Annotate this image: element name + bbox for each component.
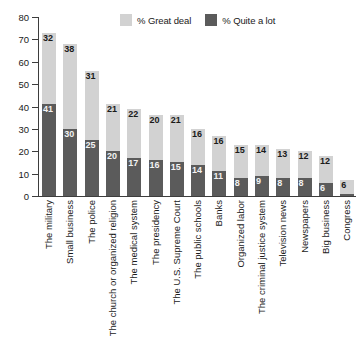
bar-value-great-deal: 31 [86,72,96,81]
bar-value-quite-a-lot: 6 [320,184,325,193]
bar-segment-quite-a-lot[interactable]: 15 [170,162,184,196]
x-axis-label: Big business [321,200,331,254]
x-axis-label: The military [44,200,54,249]
bar-stack[interactable]: 6 [340,180,354,196]
bar-stack[interactable]: 1611 [212,136,226,196]
bar-stack[interactable]: 2120 [106,104,120,196]
bar-segment-quite-a-lot[interactable]: 16 [149,160,163,196]
bar-segment-quite-a-lot[interactable]: 8 [276,178,290,196]
x-axis-label-holder: The medical system [127,200,141,357]
bar-segment-quite-a-lot[interactable]: 30 [63,129,77,196]
bar-stack[interactable]: 138 [276,149,290,196]
bar-stack[interactable]: 128 [298,151,312,196]
bar-segment-great-deal[interactable]: 32 [42,33,56,105]
bar-stack[interactable]: 3241 [42,33,56,196]
bar-segment-quite-a-lot[interactable] [340,194,354,196]
bar-segment-quite-a-lot[interactable]: 17 [127,158,141,196]
bar-segment-great-deal[interactable]: 6 [340,180,354,193]
bar-value-great-deal: 12 [299,152,309,161]
x-axis-label-holder: The church or organized religion [106,200,120,357]
bar-value-quite-a-lot: 11 [213,172,223,181]
x-axis-label: Television news [279,200,289,267]
bar-value-great-deal: 21 [171,116,181,125]
bar-value-quite-a-lot: 30 [64,130,74,139]
x-axis-label-holder: Newspapers [298,200,312,357]
bar-value-great-deal: 12 [320,157,330,166]
x-axis-label-holder: The criminal justice system [255,200,269,357]
bar-value-great-deal: 6 [341,181,346,190]
bar-stack[interactable]: 1614 [191,129,205,196]
bar-value-quite-a-lot: 25 [86,141,96,150]
x-axis-label-holder: The police [85,200,99,357]
bar-segment-quite-a-lot[interactable]: 9 [255,176,269,196]
y-tick-mark [32,196,38,197]
bar-segment-quite-a-lot[interactable]: 25 [85,140,99,196]
x-axis-label-holder: Television news [276,200,290,357]
bar-segment-great-deal[interactable]: 16 [191,129,205,165]
bar-segment-great-deal[interactable]: 16 [212,136,226,172]
x-axis-label-holder: Congress [340,200,354,357]
bar-stack[interactable]: 2217 [127,109,141,196]
x-axis-label: The public schools [193,200,203,279]
bar-value-great-deal: 14 [256,146,266,155]
bar-value-quite-a-lot: 8 [277,179,282,188]
bar-segment-great-deal[interactable]: 12 [319,156,333,183]
x-axis-label-holder: The presidency [149,200,163,357]
bar-value-great-deal: 32 [43,34,53,43]
bar-stack[interactable]: 3830 [63,44,77,196]
bar-segment-quite-a-lot[interactable]: 8 [298,178,312,196]
bar-value-great-deal: 22 [128,110,138,119]
x-axis-label-holder: Organized labor [234,200,248,357]
bar-stack[interactable]: 126 [319,156,333,196]
x-axis-label-holder: Small business [63,200,77,357]
bar-segment-great-deal[interactable]: 38 [63,44,77,129]
bar-segment-great-deal[interactable]: 13 [276,149,290,178]
bar-value-great-deal: 38 [64,45,74,54]
x-axis-label-holder: The public schools [191,200,205,357]
bar-segment-great-deal[interactable]: 21 [106,104,120,151]
bar-value-quite-a-lot: 17 [128,159,138,168]
bar-segment-great-deal[interactable]: 21 [170,115,184,162]
y-tick-label: 20 [18,146,29,157]
x-axis-label: The police [87,200,97,244]
bar-segment-great-deal[interactable]: 12 [298,151,312,178]
x-axis-label: Banks [215,200,225,226]
bar-value-great-deal: 16 [213,137,223,146]
bar-segment-quite-a-lot[interactable]: 14 [191,165,205,196]
bar-segment-great-deal[interactable]: 14 [255,145,269,176]
bar-value-quite-a-lot: 16 [150,161,160,170]
bar-segment-quite-a-lot[interactable]: 8 [234,178,248,196]
bar-value-quite-a-lot: 8 [235,179,240,188]
x-axis-label: The U.S. Supreme Court [172,200,182,305]
x-axis-label: The medical system [129,200,139,284]
bar-segment-great-deal[interactable]: 31 [85,71,99,140]
x-axis-label: Newspapers [300,200,310,253]
bar-segment-quite-a-lot[interactable]: 20 [106,151,120,196]
bar-value-great-deal: 13 [277,150,287,159]
bar-value-great-deal: 21 [107,105,117,114]
y-tick-label: 50 [18,79,29,90]
bar-value-great-deal: 20 [150,116,160,125]
bar-segment-great-deal[interactable]: 15 [234,145,248,179]
y-tick-label: 80 [18,12,29,23]
bar-value-great-deal: 15 [235,146,245,155]
bar-stack[interactable]: 3125 [85,71,99,196]
x-axis-label-holder: Big business [319,200,333,357]
bar-segment-great-deal[interactable]: 22 [127,109,141,158]
x-axis-label-holder: The U.S. Supreme Court [170,200,184,357]
bar-stack[interactable]: 2016 [149,115,163,196]
bar-value-quite-a-lot: 8 [299,179,304,188]
bar-value-great-deal: 16 [192,130,202,139]
x-axis-label: Congress [342,200,352,241]
bar-stack[interactable]: 149 [255,145,269,196]
bar-segment-quite-a-lot[interactable]: 41 [42,104,56,196]
bar-stack[interactable]: 158 [234,145,248,196]
bar-segment-great-deal[interactable]: 20 [149,115,163,160]
bar-segment-quite-a-lot[interactable]: 6 [319,183,333,196]
bar-segment-quite-a-lot[interactable]: 11 [212,171,226,196]
bar-chart: % Great deal % Quite a lot 8070605040302… [0,0,364,357]
bar-stack[interactable]: 2115 [170,115,184,196]
y-tick-label: 10 [18,169,29,180]
y-tick-label: 30 [18,124,29,135]
bar-value-quite-a-lot: 14 [192,166,202,175]
